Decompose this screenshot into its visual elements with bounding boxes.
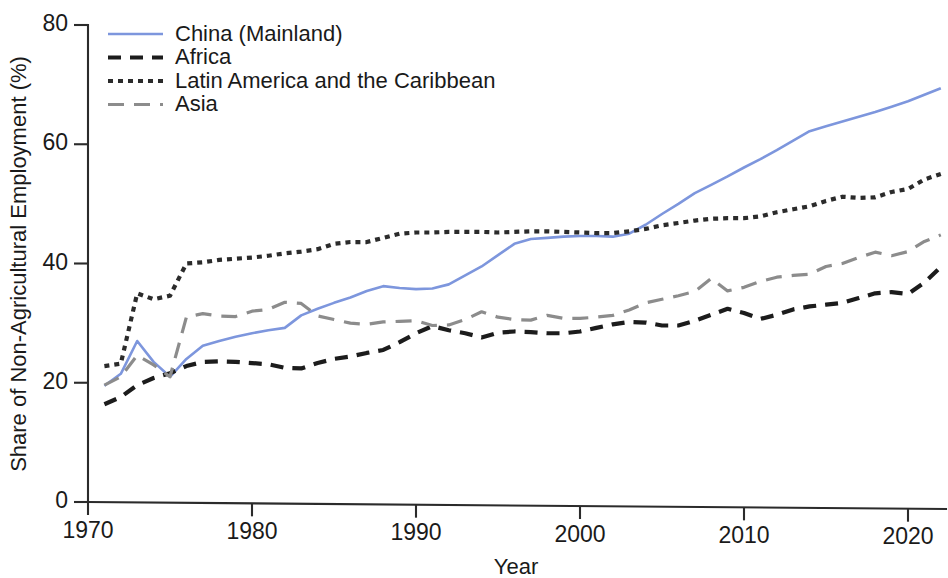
y-tick-label: 0 [55,487,68,513]
line-chart-figure: 020406080 197019801990200020102020 Share… [0,0,948,578]
series-line-china-mainland [104,88,940,386]
series-line-africa [104,267,940,404]
y-tick-label-group: 020406080 [42,10,68,513]
x-tick-label: 2000 [554,521,605,547]
x-tick-label-group: 197019801990200020102020 [62,517,933,550]
y-axis-title: Share of Non-Agricultural Employment (%) [6,56,31,472]
y-tick-label: 60 [42,129,68,155]
x-tick-label: 2010 [718,522,769,548]
x-tick-label: 1980 [226,518,277,544]
x-axis-line [88,502,946,509]
x-axis-title: Year [494,554,538,578]
y-tick-group [74,25,88,502]
legend-label-4: Asia [175,91,219,116]
x-tick-label: 2020 [882,523,933,549]
y-tick-label: 20 [42,368,68,394]
y-tick-label: 80 [42,10,68,36]
x-tick-label: 1970 [62,517,113,543]
legend-label-1: China (Mainland) [175,21,343,46]
data-series-group [104,88,940,404]
legend-label-2: Africa [175,44,232,69]
legend-label-3: Latin America and the Caribbean [175,68,495,93]
y-tick-label: 40 [42,249,68,275]
chart-canvas: 020406080 197019801990200020102020 Share… [0,0,948,578]
x-tick-label: 1990 [390,519,441,545]
chart-legend: China (Mainland)AfricaLatin America and … [108,21,495,117]
